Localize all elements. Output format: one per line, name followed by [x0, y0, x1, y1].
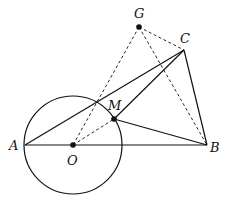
label-o: O — [67, 153, 78, 168]
point-o-dot — [70, 142, 76, 148]
segment-cm — [114, 50, 184, 119]
label-c: C — [180, 31, 190, 46]
segment-mb — [114, 119, 207, 145]
segment-om — [73, 119, 114, 145]
label-a: A — [8, 138, 18, 153]
segment-cb — [184, 50, 207, 145]
label-g: G — [134, 6, 144, 21]
point-m-dot — [111, 116, 117, 122]
geometry-diagram: G C M A O B — [0, 0, 226, 200]
label-m: M — [107, 98, 122, 113]
segment-go — [73, 27, 139, 145]
segment-ac — [25, 50, 184, 145]
segment-gb — [139, 27, 207, 145]
label-b: B — [209, 140, 220, 155]
point-g-dot — [136, 24, 142, 30]
